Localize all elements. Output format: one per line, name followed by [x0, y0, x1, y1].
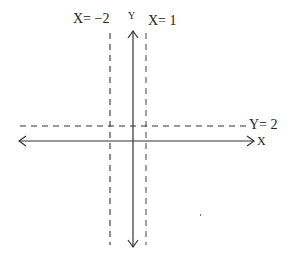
label-x-1: X= 1 — [148, 14, 177, 28]
x-axis-label: X — [257, 135, 266, 147]
label-y-2: Y= 2 — [249, 118, 278, 132]
coordinate-diagram — [0, 0, 294, 265]
y-axis-label: Y — [128, 11, 135, 21]
y-axis — [128, 31, 138, 247]
speck-mark — [200, 214, 201, 216]
label-x-minus-2: X= −2 — [73, 12, 109, 26]
x-axis — [19, 136, 254, 146]
